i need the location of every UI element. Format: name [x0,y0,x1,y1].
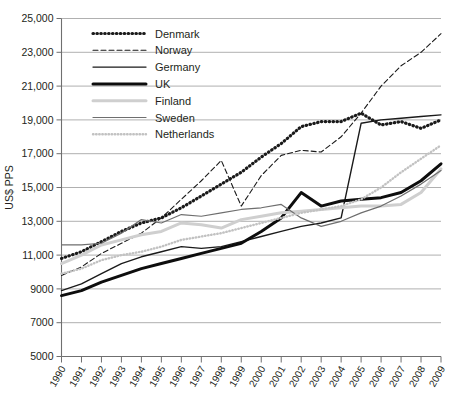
y-tick-label: 15,000 [21,181,53,193]
y-tick-label: 19,000 [21,114,53,126]
y-tick-label: 11,000 [22,249,53,261]
legend-label-finland: Finland [155,95,191,107]
y-tick-label: 21,000 [21,80,53,92]
y-tick-label: 13,000 [21,215,53,227]
legend-label-netherlands: Netherlands [155,128,215,140]
line-chart: 25,00023,00021,00019,00017,00015,00013,0… [0,0,454,420]
legend-label-germany: Germany [155,61,201,73]
legend-label-norway: Norway [155,44,193,56]
y-tick-label: 7000 [30,316,54,328]
y-tick-label: 5000 [30,350,54,362]
y-tick-label: 17,000 [21,147,53,159]
legend-label-denmark: Denmark [155,28,200,40]
y-axis-title: US$ PPS [3,165,15,209]
y-tick-label: 25,000 [21,12,53,24]
y-tick-label: 9000 [30,283,54,295]
chart-canvas: 25,00023,00021,00019,00017,00015,00013,0… [0,0,454,420]
legend-label-sweden: Sweden [155,112,195,124]
y-tick-label: 23,000 [21,46,53,58]
legend-label-uk: UK [155,78,171,90]
